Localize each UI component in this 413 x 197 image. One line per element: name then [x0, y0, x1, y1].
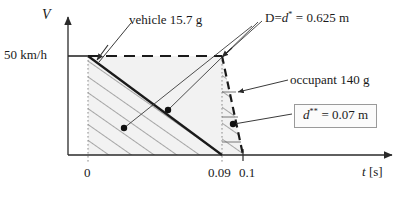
d-double-star-callout-box: d** = 0.07 m — [294, 104, 377, 128]
x-axis-label: t [s] — [362, 165, 383, 178]
d-star-prefix: D= — [265, 10, 282, 25]
x-tick-label-009: 0.09 — [208, 166, 231, 179]
leader-dstar-arrow — [222, 48, 232, 57]
x-tick-label-0: 0 — [84, 166, 91, 179]
dot-dstar2 — [230, 121, 236, 127]
d-star-value: = 0.625 m — [293, 10, 349, 25]
y-axis-tick-label: 50 km/h — [4, 48, 47, 61]
x-tick-label-01: 0.1 — [239, 166, 255, 179]
y-axis-label: V — [42, 8, 51, 22]
occupant-annotation: occupant 140 g — [290, 73, 369, 86]
leader-occupant — [238, 80, 288, 92]
velocity-time-diagram: V 50 km/h vehicle 15.7 g D=d* = 0.625 m … — [0, 0, 413, 197]
dot-dstar-low — [121, 125, 127, 131]
vehicle-annotation: vehicle 15.7 g — [129, 13, 202, 26]
d-double-star-value: = 0.07 m — [318, 107, 368, 122]
leader-dstar2 — [234, 114, 292, 124]
d-star-annotation: D=d* = 0.625 m — [265, 11, 349, 24]
dot-dstar-mid — [165, 107, 171, 113]
diagram-canvas — [0, 0, 413, 197]
d-double-star-superscript: ** — [310, 107, 319, 116]
